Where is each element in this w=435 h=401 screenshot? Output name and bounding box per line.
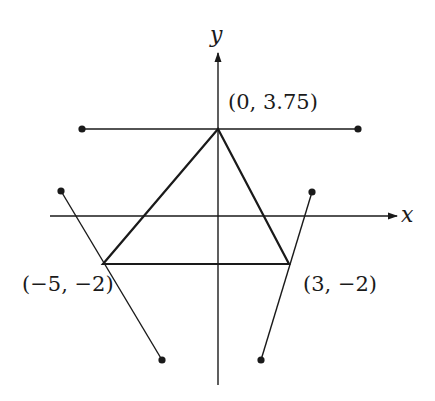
right-vertex-label: (3, −2) — [303, 274, 377, 295]
left-vertex-label: (−5, −2) — [22, 274, 114, 295]
endpoint-dot — [158, 356, 165, 363]
x-axis-label: x — [401, 204, 413, 226]
apex-vertex-label: (0, 3.75) — [228, 92, 318, 113]
endpoint-dot — [354, 125, 361, 132]
y-axis-label: y — [210, 24, 222, 46]
coordinate-diagram — [0, 0, 435, 401]
endpoint-dot — [308, 188, 315, 195]
triangle — [103, 129, 289, 264]
endpoint-dot — [57, 187, 64, 194]
endpoint-dot — [257, 356, 264, 363]
endpoint-dot — [78, 125, 85, 132]
